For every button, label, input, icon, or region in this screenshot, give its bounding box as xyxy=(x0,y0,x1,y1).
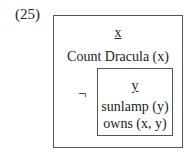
inner-condition-owns: owns (x, y) xyxy=(98,116,172,132)
example-number: (25) xyxy=(15,6,40,23)
inner-condition-sunlamp: sunlamp (y) xyxy=(98,99,172,115)
inner-drs-box: y sunlamp (y) owns (x, y) xyxy=(97,68,173,136)
outer-condition: Count Dracula (x) xyxy=(54,49,182,65)
negation-symbol: ¬ xyxy=(78,85,86,102)
inner-referent: y xyxy=(98,78,172,94)
outer-referent: x xyxy=(54,25,182,41)
